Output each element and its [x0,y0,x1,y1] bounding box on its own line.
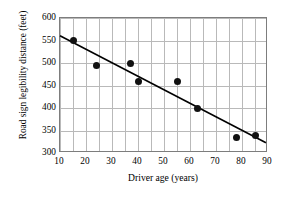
x-tick-label: 50 [150,155,176,167]
x-tick-label: 60 [176,155,202,167]
x-tick-label: 40 [124,155,150,167]
data-point [70,37,77,44]
y-tick-label: 450 [28,80,56,90]
y-tick-label: 500 [28,57,56,67]
data-point [127,60,134,67]
data-point [194,105,201,112]
data-point [135,78,142,85]
x-tick-label: 10 [46,155,72,167]
plot-area [59,17,267,152]
x-axis-title: Driver age (years) [59,172,267,183]
x-tick-label: 30 [98,155,124,167]
x-tick-label: 70 [202,155,228,167]
x-tick-label: 90 [254,155,280,167]
y-axis-title: Road sign legibility distance (feet) [18,0,28,150]
data-point [93,62,100,69]
y-tick-label: 600 [28,12,56,22]
x-axis-tick-labels: 102030405060708090 [59,155,267,169]
data-point [252,132,259,139]
x-tick-label: 20 [72,155,98,167]
data-point [174,78,181,85]
data-point [233,134,240,141]
y-tick-label: 350 [28,125,56,135]
x-tick-label: 80 [228,155,254,167]
y-tick-label: 400 [28,102,56,112]
chart-figure: Road sign legibility distance (feet) 300… [0,0,285,199]
y-axis-tick-labels: 300350400450500550600 [28,12,56,157]
data-points [60,18,266,151]
y-tick-label: 550 [28,35,56,45]
